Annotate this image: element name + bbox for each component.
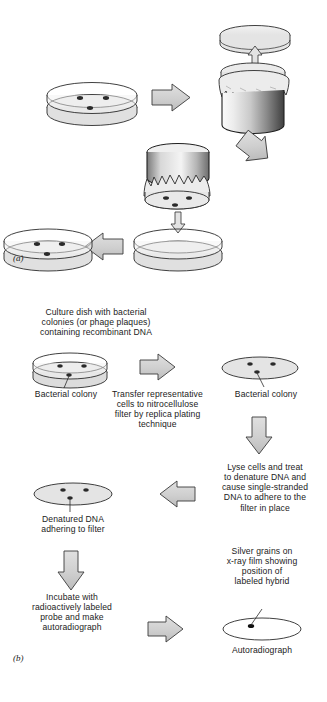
caption-bacterial-colony-right: Bacterial colony: [214, 389, 318, 399]
panel-b-arrow-down-incubate: [58, 551, 84, 590]
figure-colony-hybridization: (a) (b) Culture dish with bacterial colo…: [0, 0, 327, 702]
caption-autoradiograph: Autoradiograph: [206, 645, 318, 655]
caption-incubate: Incubate with radioactively labeled prob…: [10, 592, 134, 633]
panel-b-arrow-right-transfer: [140, 354, 175, 380]
caption-culture-dish: Culture dish with bacterial colonies (or…: [12, 307, 180, 337]
panel-b-label: (b): [13, 653, 24, 663]
panel-a-culture-dish: [47, 83, 137, 126]
panel-b-arrow-down-lyse: [246, 417, 272, 454]
caption-transfer: Transfer representative cells to nitroce…: [100, 389, 215, 430]
panel-b-arrow-left-denature: [160, 481, 195, 507]
panel-b-nitrocellulose-filter: [222, 357, 298, 387]
panel-a-empty-dish: [134, 229, 222, 271]
caption-silver-grains: Silver grains on x-ray film showing posi…: [203, 546, 321, 587]
panel-b-denatured-filter: [34, 483, 112, 512]
panel-a-arrow-right-1: [152, 84, 190, 111]
panel-a-replica-dish: [4, 229, 92, 271]
panel-a-replica-block-lid: [219, 26, 290, 134]
panel-b-culture-dish: [33, 353, 107, 388]
panel-b-autoradiograph-film: [223, 609, 301, 640]
panel-b-arrow-right-autorad: [148, 616, 183, 642]
caption-lyse: Lyse cells and treat to denature DNA and…: [207, 462, 323, 513]
caption-denatured: Denatured DNA adhering to filter: [14, 514, 132, 534]
panel-a-inverted-block: [144, 144, 210, 210]
panel-a-label: (a): [13, 253, 24, 263]
panel-a-arrow-down-press: [171, 212, 185, 233]
